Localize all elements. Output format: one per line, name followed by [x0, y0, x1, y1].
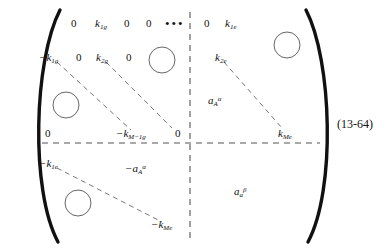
block-label-bottom-left-sup: α	[142, 163, 146, 171]
block-label-bottom-left-base: −a	[125, 162, 138, 174]
matrix-entry-r2c1-base: −k	[39, 51, 51, 63]
matrix-entry-r2c4: 0	[126, 52, 132, 63]
matrix-entry-r1c1: 0	[71, 18, 77, 29]
matrix-entry-r2c1: −k1g	[39, 52, 58, 65]
matrix-entry-r1c2-sub: 1g	[100, 23, 107, 31]
annotation-circle-bottom-left	[65, 190, 91, 216]
matrix-entry-r1c5: 0	[204, 18, 210, 29]
matrix-entry-r1c3: 0	[124, 18, 130, 29]
matrix-entry-r2c3: k2g	[96, 52, 108, 65]
annotation-circle-middle-left	[53, 92, 79, 118]
diagonal-dash-k2g-to-zero	[106, 62, 172, 128]
equation-number: (13-64)	[337, 117, 373, 132]
matrix-entry-r4c1: −k1e	[39, 158, 58, 171]
matrix-entry-r4-diagonal-sub: Me	[163, 224, 172, 232]
left-parenthesis	[39, 10, 60, 242]
diagonal-dash-k2e-to-kMe	[224, 62, 282, 128]
block-label-top-right-sup: α	[218, 95, 222, 103]
block-label-bottom-right-sup: β	[243, 186, 247, 194]
matrix-entry-r3-diagonal-sub: M−1g	[128, 133, 146, 141]
annotation-circle-top-middle	[149, 47, 175, 73]
block-label-bottom-right: aaβ	[234, 186, 247, 199]
matrix-entry-r3-diagonal-end: −kM−1g	[116, 128, 146, 141]
row1-ellipsis: •••	[165, 17, 185, 30]
matrix-graphics-layer	[0, 0, 390, 250]
block-label-top-right: aAα	[208, 95, 221, 108]
matrix-entry-r3-right-sub: Me	[283, 133, 292, 141]
matrix-entry-r4c1-base: −k	[39, 157, 51, 169]
diagonal-dash-k1g-to-kM1g	[57, 62, 131, 130]
matrix-entry-r2c2: 0	[76, 52, 82, 63]
right-parenthesis	[306, 10, 327, 242]
matrix-entry-r1-right-sub: 1e	[230, 23, 237, 31]
matrix-entry-r4c1-sub: 1e	[51, 163, 58, 171]
matrix-equation-figure: 0 k1g 0 0 ••• 0 k1e −k1g 0 k2g 0 k2e aAα…	[0, 0, 390, 250]
matrix-entry-r2-right: k2e	[215, 52, 227, 65]
block-label-bottom-left: −aAα	[125, 163, 146, 176]
matrix-entry-r4-diagonal-end: −kMe	[151, 219, 172, 232]
matrix-entry-r2c1-sub: 1g	[51, 57, 58, 65]
matrix-entry-r3-diagonal-base: −k	[116, 127, 128, 139]
matrix-entry-r1c2: k1g	[95, 18, 107, 31]
matrix-entry-r2c3-sub: 2g	[101, 57, 108, 65]
matrix-entry-r3c5: 0	[175, 128, 181, 139]
matrix-entry-r2-right-sub: 2e	[220, 57, 227, 65]
matrix-entry-r1-right: k1e	[225, 18, 237, 31]
matrix-entry-r4-diagonal-base: −k	[151, 218, 163, 230]
annotation-circle-top-right	[274, 32, 300, 58]
matrix-entry-r3c1: 0	[45, 128, 51, 139]
matrix-entry-r1c4: 0	[146, 18, 152, 29]
matrix-entry-r3-right: kMe	[278, 128, 292, 141]
diagonal-dash-k1e-to-kMe	[57, 168, 162, 222]
